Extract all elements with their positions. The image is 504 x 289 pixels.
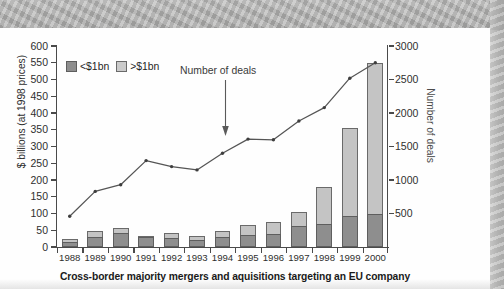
line-marker-1997[interactable] [297,119,300,122]
legend-label-large-deals: >$1bn [130,61,159,72]
line-marker-1995[interactable] [246,137,249,140]
large-deals-swatch-icon [116,61,127,72]
line-marker-1988[interactable] [68,215,71,218]
line-marker-2000[interactable] [374,61,377,64]
line-marker-1994[interactable] [221,152,224,155]
line-marker-1990[interactable] [119,183,122,186]
line-marker-1991[interactable] [144,159,147,162]
line-marker-1996[interactable] [272,138,275,141]
figure-caption: Cross-border majority mergers and aquisi… [0,271,470,282]
line-marker-1993[interactable] [195,168,198,171]
legend-item-large-deals[interactable]: >$1bn [116,61,159,72]
line-marker-1999[interactable] [348,77,351,80]
chart-legend: <$1bn >$1bn [66,61,159,72]
legend-item-small-deals[interactable]: <$1bn [66,61,109,72]
number-of-deals-annotation-label: Number of deals [180,65,256,76]
line-marker-1992[interactable] [170,165,173,168]
annotation-arrow-icon [221,80,230,137]
legend-label-small-deals: <$1bn [80,61,109,72]
scanned-page-top-texture [0,0,504,30]
line-marker-1989[interactable] [94,190,97,193]
line-marker-1998[interactable] [323,106,326,109]
chart-figure: $ billions (at 1998 prices) Number of de… [0,28,490,289]
small-deals-swatch-icon [66,61,77,72]
scanned-page-right-texture [490,0,504,289]
